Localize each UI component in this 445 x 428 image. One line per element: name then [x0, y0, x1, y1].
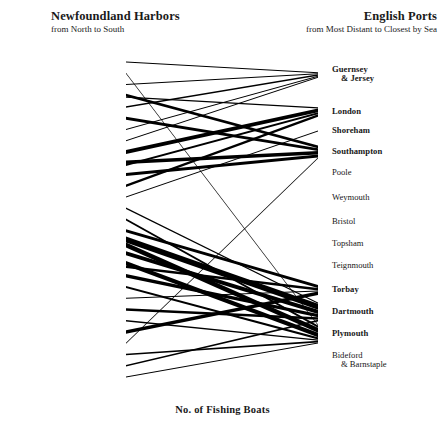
right-node-label: Southampton [332, 147, 382, 156]
right-node-label: Dartmouth [332, 307, 374, 316]
right-node-label: Weymouth [332, 193, 370, 202]
right-node-label: Torbay [332, 285, 359, 294]
flow-diagram-figure: Newfoundland Harbors from North to South… [0, 0, 445, 428]
right-node-label: Shoreham [332, 126, 370, 135]
flow-ribbon [126, 114, 318, 187]
right-node-label: Poole [332, 168, 352, 177]
right-node-label: Topsham [332, 239, 363, 248]
right-node-label: Guernsey& Jersey [332, 65, 374, 83]
right-node-label: Teignmouth [332, 261, 373, 270]
flow-ribbon [126, 131, 318, 198]
figure-caption: No. of Fishing Boats [0, 404, 445, 415]
right-node-label: Bristol [332, 217, 355, 226]
flow-ribbon [126, 62, 318, 74]
right-node-label: Plymouth [332, 329, 368, 338]
right-node-label: Bideford& Barnstaple [332, 351, 387, 369]
right-node-label: London [332, 107, 361, 116]
